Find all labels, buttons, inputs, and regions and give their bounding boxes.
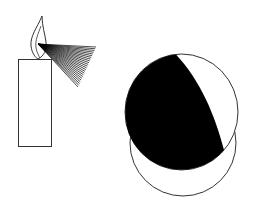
candle-body	[19, 60, 52, 147]
diagram-canvas	[0, 0, 254, 211]
flame-outer	[31, 16, 46, 59]
